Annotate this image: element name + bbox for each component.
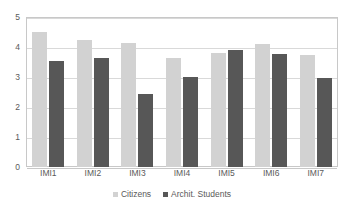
bar bbox=[228, 50, 243, 167]
bar bbox=[166, 58, 181, 167]
bar-group bbox=[204, 17, 249, 167]
x-tick-label: IMI3 bbox=[129, 169, 146, 178]
legend-label: Archit. Students bbox=[171, 190, 231, 199]
y-tick-label: 4 bbox=[15, 43, 20, 52]
legend-swatch-icon bbox=[163, 192, 168, 197]
bar bbox=[211, 53, 226, 167]
legend-item[interactable]: Citizens bbox=[113, 190, 151, 199]
chart-legend: CitizensArchit. Students bbox=[0, 190, 344, 199]
x-tick-label: IMI4 bbox=[174, 169, 191, 178]
bar bbox=[32, 32, 47, 167]
y-axis-tick-labels: 012345 bbox=[0, 17, 24, 167]
x-tick-label: IMI5 bbox=[218, 169, 235, 178]
y-tick-label: 1 bbox=[15, 133, 20, 142]
bar bbox=[77, 40, 92, 167]
x-tick-label: IMI2 bbox=[85, 169, 102, 178]
bar-group bbox=[249, 17, 294, 167]
x-tick-label: IMI1 bbox=[40, 169, 57, 178]
bar bbox=[121, 43, 136, 167]
x-axis-tick-labels: IMI1IMI2IMI3IMI4IMI5IMI6IMI7 bbox=[26, 169, 338, 183]
bar bbox=[49, 61, 64, 168]
bar bbox=[272, 54, 287, 167]
y-tick-label: 3 bbox=[15, 73, 20, 82]
bar-group bbox=[115, 17, 160, 167]
bar-group bbox=[26, 17, 71, 167]
bar bbox=[183, 77, 198, 167]
bar bbox=[300, 55, 315, 167]
bar-series-layer bbox=[26, 17, 338, 167]
bar bbox=[94, 58, 109, 168]
bar-group bbox=[160, 17, 205, 167]
y-tick-label: 2 bbox=[15, 103, 20, 112]
bar bbox=[317, 78, 332, 167]
y-tick-label: 0 bbox=[15, 163, 20, 172]
legend-swatch-icon bbox=[113, 192, 118, 197]
y-tick-label: 5 bbox=[15, 13, 20, 22]
bar-group bbox=[293, 17, 338, 167]
bar bbox=[138, 94, 153, 167]
legend-label: Citizens bbox=[121, 190, 151, 199]
bar bbox=[255, 44, 270, 167]
x-tick-label: IMI7 bbox=[307, 169, 324, 178]
legend-item[interactable]: Archit. Students bbox=[163, 190, 231, 199]
x-tick-label: IMI6 bbox=[263, 169, 280, 178]
bar-chart: 012345 IMI1IMI2IMI3IMI4IMI5IMI6IMI7 Citi… bbox=[0, 0, 344, 213]
bar-group bbox=[71, 17, 116, 167]
